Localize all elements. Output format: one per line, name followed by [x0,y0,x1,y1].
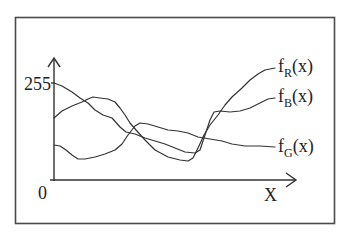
curve-label-fB-subscript: B [284,96,292,110]
diagram-frame [16,18,335,224]
curve-label-fR: fR(x) [278,56,313,80]
curve-label-fG-subscript: G [284,146,293,160]
y-axis: 255 [24,58,60,181]
curve-label-fG: fG(x) [278,136,314,160]
x-axis-label: X [264,185,277,205]
curve-fB [54,83,275,153]
curve-labels: fR(x) fB(x) fG(x) [278,56,314,160]
origin-label: 0 [38,183,47,203]
curve-label-fB-arg: (x) [292,86,313,107]
rgb-function-diagram: 255 0 X fR(x) fB(x) fG(x) [0,0,346,235]
curve-label-fR-arg: (x) [292,56,313,77]
curve-label-fR-subscript: R [284,66,292,80]
curve-fG [54,123,275,159]
curve-fR [54,68,275,161]
x-axis: 0 X [38,173,296,205]
curves [54,68,275,161]
curve-label-fB: fB(x) [278,86,313,110]
y-axis-max-label: 255 [24,74,51,94]
curve-label-fG-arg: (x) [293,136,314,157]
